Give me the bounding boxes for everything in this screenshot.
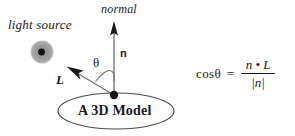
equation-equals-sign: = [227, 66, 234, 82]
lighting-diagram-figure: light source normal n θ L A 3D Model cos… [0, 0, 295, 136]
theta-angle-arc [96, 70, 115, 81]
normal-label: normal [101, 3, 137, 15]
equation-denominator: |n| [249, 74, 267, 89]
origin-point-marker [110, 91, 118, 99]
normal-vector-symbol-label: n [120, 48, 127, 59]
light-vector-arrowhead-icon [67, 67, 84, 80]
equation-numerator: n • L [244, 58, 273, 73]
equation-theta-symbol: θ [215, 66, 221, 82]
light-vector-shaft [77, 73, 113, 95]
theta-symbol-label: θ [93, 56, 99, 69]
model-label: A 3D Model [78, 104, 152, 118]
light-source-label: light source [8, 18, 72, 31]
light-vector-symbol-label: L [56, 73, 64, 86]
equation-fraction: n • L |n| [241, 58, 275, 89]
equation-cos-text: cos [196, 66, 215, 82]
light-source-core-icon [38, 49, 45, 56]
cosine-equation: cos θ = n • L |n| [196, 58, 275, 89]
